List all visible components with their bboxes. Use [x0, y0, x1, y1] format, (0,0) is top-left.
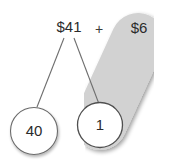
node-right: 1 [78, 103, 123, 148]
diagram-canvas: 40 1 $41 + $6 [0, 0, 173, 167]
node-left-value: 40 [26, 122, 43, 139]
number-bond-diagram: 40 1 $41 + $6 [0, 0, 173, 167]
node-left: 40 [11, 108, 58, 155]
connector-left [37, 38, 64, 107]
total-label: $41 [56, 18, 81, 35]
node-right-value: 1 [96, 116, 104, 133]
addend-label: $6 [131, 19, 148, 36]
plus-operator-label: + [95, 21, 103, 37]
